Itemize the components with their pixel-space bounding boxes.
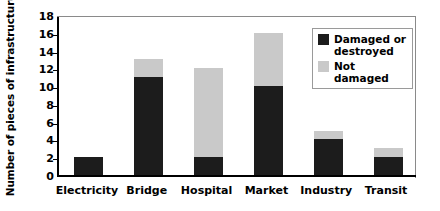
bar-group-hospital bbox=[194, 68, 223, 175]
bar-segment-electricity-damaged-or-destroyed bbox=[74, 157, 103, 175]
bar-group-transit bbox=[374, 148, 403, 175]
legend-swatch-not-damaged-icon bbox=[318, 61, 329, 72]
y-tick-mark-16 bbox=[53, 35, 59, 36]
legend-label-damaged: Damaged or destroyed bbox=[334, 33, 408, 57]
y-tick-label-12: 12 bbox=[30, 64, 54, 75]
bar-group-bridge bbox=[134, 59, 163, 175]
legend-label-not-damaged: Not damaged bbox=[334, 60, 408, 84]
bar-segment-industry-damaged-or-destroyed bbox=[314, 139, 343, 175]
x-tick-label-bridge: Bridge bbox=[126, 184, 167, 197]
y-axis-title-text: Number of pieces of infrastructure bbox=[4, 0, 16, 196]
y-tick-mark-4 bbox=[53, 141, 59, 142]
bar-segment-bridge-not-damaged bbox=[134, 59, 163, 77]
bar-segment-market-not-damaged bbox=[254, 33, 283, 86]
bar-group-industry bbox=[314, 131, 343, 175]
bar-segment-industry-not-damaged bbox=[314, 131, 343, 140]
y-tick-label-2: 2 bbox=[30, 153, 54, 164]
y-tick-label-16: 16 bbox=[30, 29, 54, 40]
x-tick-label-transit: Transit bbox=[365, 184, 408, 197]
x-tick-label-hospital: Hospital bbox=[181, 184, 232, 197]
y-axis-title: Number of pieces of infrastructure bbox=[0, 0, 20, 190]
stacked-bar-chart: Number of pieces of infrastructure 18161… bbox=[0, 0, 440, 211]
x-tick-label-market: Market bbox=[245, 184, 289, 197]
bar-segment-hospital-damaged-or-destroyed bbox=[194, 157, 223, 175]
y-tick-label-14: 14 bbox=[30, 47, 54, 58]
y-tick-label-6: 6 bbox=[30, 118, 54, 129]
bar-group-market bbox=[254, 33, 283, 175]
x-tick-label-electricity: Electricity bbox=[56, 184, 118, 197]
chart-legend: Damaged or destroyed Not damaged bbox=[312, 28, 413, 89]
y-tick-mark-8 bbox=[53, 106, 59, 107]
y-tick-mark-10 bbox=[53, 88, 59, 89]
y-tick-label-10: 10 bbox=[30, 82, 54, 93]
bar-segment-hospital-not-damaged bbox=[194, 68, 223, 157]
bar-segment-transit-damaged-or-destroyed bbox=[374, 157, 403, 175]
bar-segment-transit-not-damaged bbox=[374, 148, 403, 157]
y-tick-label-18: 18 bbox=[30, 11, 54, 22]
bar-segment-bridge-damaged-or-destroyed bbox=[134, 77, 163, 175]
y-tick-mark-14 bbox=[53, 53, 59, 54]
legend-swatch-damaged-icon bbox=[318, 34, 329, 45]
y-axis-tick-labels: 181614121086420 bbox=[28, 0, 54, 211]
y-tick-label-0: 0 bbox=[30, 171, 54, 182]
x-tick-label-industry: Industry bbox=[300, 184, 352, 197]
legend-item-not-damaged: Not damaged bbox=[318, 60, 408, 84]
bar-segment-market-damaged-or-destroyed bbox=[254, 86, 283, 175]
legend-item-damaged: Damaged or destroyed bbox=[318, 33, 408, 57]
y-tick-label-4: 4 bbox=[30, 135, 54, 146]
y-tick-label-8: 8 bbox=[30, 100, 54, 111]
y-tick-mark-2 bbox=[53, 159, 59, 160]
bar-group-electricity bbox=[74, 157, 103, 175]
y-tick-mark-6 bbox=[53, 124, 59, 125]
y-tick-mark-12 bbox=[53, 70, 59, 71]
